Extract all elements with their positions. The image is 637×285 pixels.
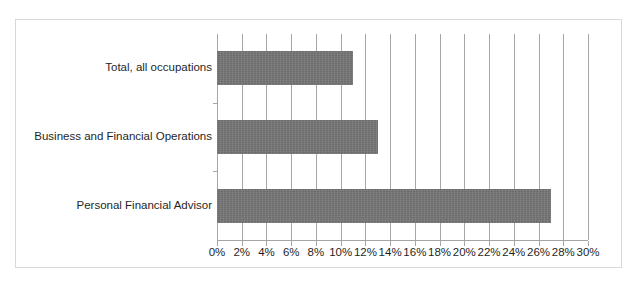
category-label: Personal Financial Advisor bbox=[76, 199, 212, 212]
x-axis-line bbox=[217, 240, 588, 241]
x-tick-label: 2% bbox=[233, 246, 250, 258]
bar bbox=[217, 51, 353, 85]
x-tick-label: 4% bbox=[258, 246, 275, 258]
x-axis-tick-labels: 0%2%4%6%8%10%12%14%16%18%20%22%24%26%28%… bbox=[217, 246, 588, 262]
x-tick-label: 30% bbox=[576, 246, 599, 258]
category-label: Business and Financial Operations bbox=[34, 130, 212, 143]
x-tick-label: 8% bbox=[308, 246, 325, 258]
gridline bbox=[563, 34, 564, 240]
bar-chart: Total, all occupationsBusiness and Finan… bbox=[0, 0, 637, 285]
x-tick-label: 22% bbox=[478, 246, 501, 258]
category-axis-tick bbox=[213, 171, 217, 172]
x-tick-label: 14% bbox=[379, 246, 402, 258]
x-tick-label: 12% bbox=[354, 246, 377, 258]
x-tick-label: 28% bbox=[552, 246, 575, 258]
bar bbox=[217, 120, 378, 154]
x-tick-label: 26% bbox=[527, 246, 550, 258]
x-tick-label: 10% bbox=[329, 246, 352, 258]
x-tick-label: 6% bbox=[283, 246, 300, 258]
x-tick-label: 20% bbox=[453, 246, 476, 258]
x-tick-label: 18% bbox=[428, 246, 451, 258]
plot-area bbox=[217, 34, 588, 240]
x-tick-label: 0% bbox=[209, 246, 226, 258]
category-axis-labels: Total, all occupationsBusiness and Finan… bbox=[16, 34, 212, 240]
x-tick-label: 16% bbox=[403, 246, 426, 258]
x-tick-label: 24% bbox=[502, 246, 525, 258]
bar bbox=[217, 189, 551, 223]
category-axis-tick bbox=[213, 103, 217, 104]
chart-frame: Total, all occupationsBusiness and Finan… bbox=[15, 19, 622, 268]
chart-title-remnant bbox=[0, 0, 637, 3]
category-label: Total, all occupations bbox=[105, 61, 212, 74]
gridline bbox=[588, 34, 589, 240]
